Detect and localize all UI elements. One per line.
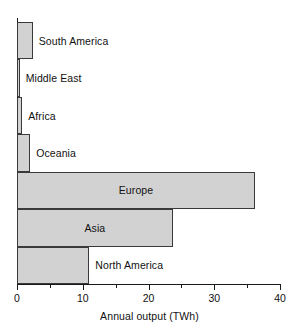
bar-label: South America: [39, 35, 109, 47]
x-tick: [17, 284, 18, 290]
bar-row: Africa: [17, 97, 280, 134]
bar-row: Europe: [17, 172, 280, 209]
x-tick-label: 30: [208, 292, 220, 304]
x-tick-minor: [50, 284, 51, 288]
x-tick: [83, 284, 84, 290]
x-tick: [280, 284, 281, 290]
x-tick-label: 20: [143, 292, 155, 304]
bar-label: Africa: [28, 110, 55, 122]
x-tick-minor: [247, 284, 248, 288]
bar-label: North America: [95, 259, 163, 271]
x-tick: [149, 284, 150, 290]
x-axis-title: Annual output (TWh): [0, 310, 299, 322]
bar-label: Asia: [17, 222, 173, 234]
bar: [17, 59, 20, 96]
bar-row: North America: [17, 247, 280, 284]
bar-row: Asia: [17, 209, 280, 246]
bar: [17, 97, 22, 134]
x-tick-minor: [116, 284, 117, 288]
x-tick-label: 40: [274, 292, 286, 304]
x-tick-minor: [181, 284, 182, 288]
bar: [17, 247, 89, 284]
bar-row: Oceania: [17, 134, 280, 171]
bar-row: Middle East: [17, 59, 280, 96]
x-tick-label: 0: [14, 292, 20, 304]
bars-container: South AmericaMiddle EastAfricaOceaniaEur…: [17, 22, 280, 284]
bar: [17, 134, 30, 171]
bar-label: Oceania: [36, 147, 76, 159]
bar-row: South America: [17, 22, 280, 59]
x-tick-label: 10: [77, 292, 89, 304]
bar-chart: South AmericaMiddle EastAfricaOceaniaEur…: [0, 0, 299, 332]
bar: [17, 22, 33, 59]
x-tick: [214, 284, 215, 290]
bar-label: Europe: [17, 184, 255, 196]
bar-label: Middle East: [26, 72, 82, 84]
